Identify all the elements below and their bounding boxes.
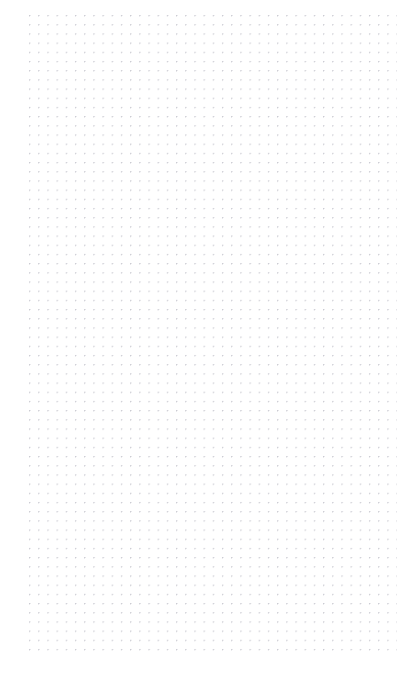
page-margin	[0, 0, 413, 674]
notebook-page	[0, 0, 413, 674]
